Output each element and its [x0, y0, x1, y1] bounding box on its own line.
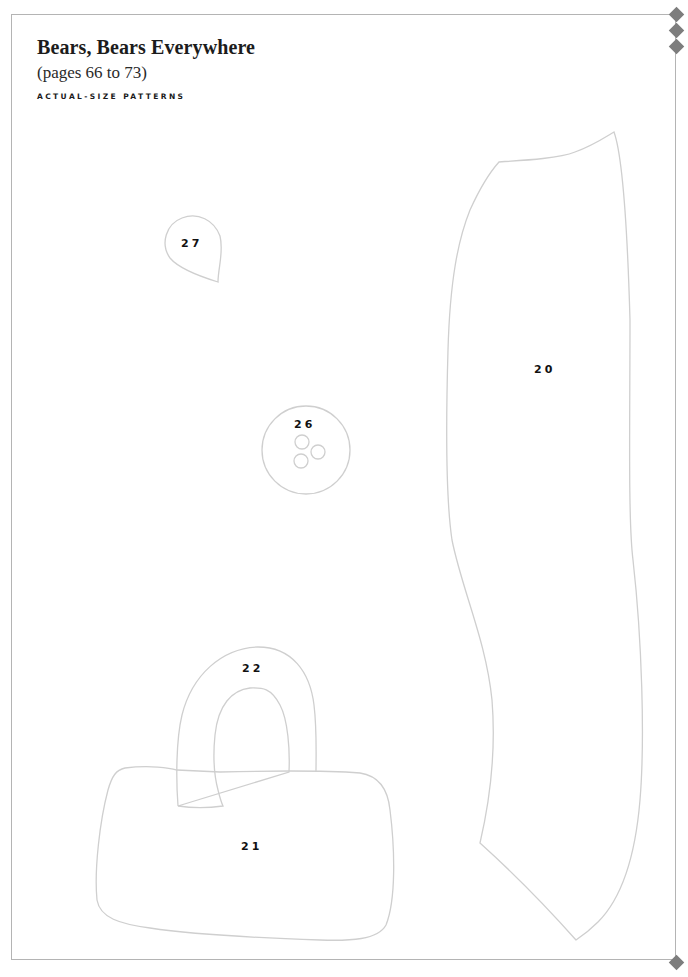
pattern-piece-21-label: 21	[241, 840, 262, 853]
pattern-piece-27-label: 27	[181, 237, 202, 250]
button-hole-circle	[294, 454, 308, 468]
pattern-piece-21-outline	[96, 767, 393, 941]
button-hole-circle	[295, 435, 309, 449]
pattern-piece-20-outline	[447, 132, 643, 940]
pattern-piece-22-label: 22	[242, 662, 263, 675]
pattern-piece-20-label: 20	[534, 363, 555, 376]
button-hole-circle	[311, 445, 325, 459]
pattern-piece-26-label: 26	[294, 418, 315, 431]
pattern-pieces	[0, 0, 688, 977]
